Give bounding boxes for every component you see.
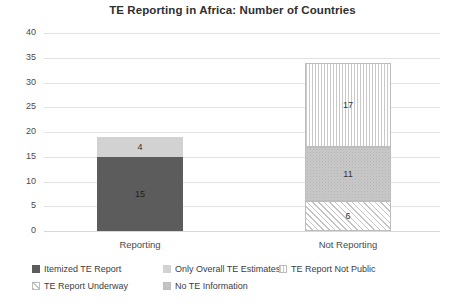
bar-reporting[interactable]: 154 [97,137,183,231]
legend-swatch-icon [32,282,40,290]
legend-swatch-icon [163,282,171,290]
bar-segment-value: 17 [341,100,355,110]
x-axis-label-not-reporting: Not Reporting [288,239,408,250]
bar-segment-itemized-te-report[interactable]: 15 [97,157,183,231]
y-axis-tick-40: 40 [6,28,36,37]
legend-item-no-te-information[interactable]: No TE Information [163,281,248,291]
y-axis-tick-20: 20 [6,127,36,136]
bar-segment-value: 4 [135,142,144,152]
legend-swatch-icon [32,265,40,273]
y-axis-tick-0: 0 [6,226,36,235]
stacked-bar-chart: TE Reporting in Africa: Number of Countr… [0,0,465,307]
y-axis-tick-35: 35 [6,53,36,62]
gridline-35 [44,58,440,59]
legend-item-te-report-underway[interactable]: TE Report Underway [32,281,128,291]
gridline-0 [44,231,440,232]
legend-item-te-report-not-public[interactable]: TE Report Not Public [279,264,376,274]
y-axis-tick-5: 5 [6,201,36,210]
legend-item-only-overall-te-estimates[interactable]: Only Overall TE Estimates [163,264,280,274]
y-axis-tick-10: 10 [6,177,36,186]
legend-item-itemized-te-report[interactable]: Itemized TE Report [32,264,121,274]
bar-segment-value: 11 [341,169,354,179]
y-axis-tick-30: 30 [6,78,36,87]
gridline-40 [44,33,440,34]
legend-item-label: No TE Information [175,281,248,291]
bar-segment-te-report-not-public[interactable]: 17 [305,63,391,147]
legend-item-label: Only Overall TE Estimates [175,264,280,274]
legend-item-label: TE Report Not Public [291,264,376,274]
bar-segment-value: 15 [133,189,147,199]
legend-item-label: Itemized TE Report [44,264,121,274]
legend-item-label: TE Report Underway [44,281,128,291]
legend-swatch-icon [279,265,287,273]
legend-swatch-icon [163,265,171,273]
chart-title: TE Reporting in Africa: Number of Countr… [0,4,465,16]
y-axis-tick-25: 25 [6,102,36,111]
bar-not-reporting[interactable]: 61117 [305,63,391,231]
chart-legend: Itemized TE ReportOnly Overall TE Estima… [0,262,465,304]
x-axis-label-reporting: Reporting [80,239,200,250]
plot-area: 15461117 [44,33,440,231]
bar-segment-only-overall-te-estimates[interactable]: 4 [97,137,183,157]
bar-segment-te-report-underway[interactable]: 6 [305,201,391,231]
bar-segment-value: 6 [343,211,352,221]
bar-segment-no-te-information[interactable]: 11 [305,147,391,201]
y-axis-tick-15: 15 [6,152,36,161]
